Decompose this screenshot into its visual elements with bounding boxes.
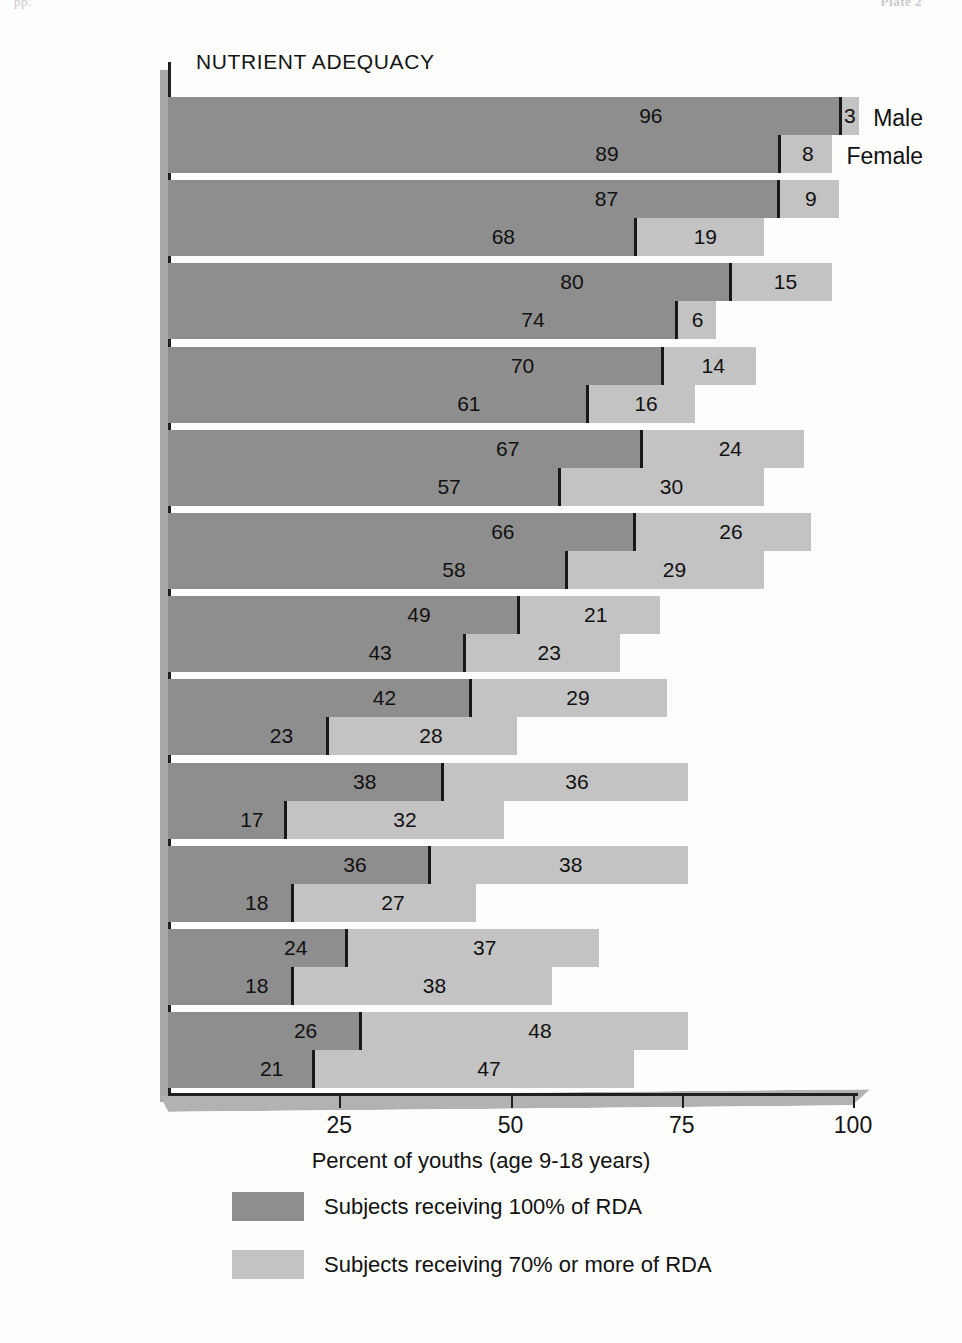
segment-100-rda	[168, 679, 469, 717]
segment-divider	[469, 679, 472, 717]
segment-70-rda	[359, 1012, 688, 1050]
segment-divider	[661, 347, 664, 385]
value-label-100-rda: 38	[353, 770, 376, 794]
x-tick-50	[511, 1093, 513, 1108]
segment-divider	[284, 801, 287, 839]
x-tick-25	[339, 1093, 341, 1108]
legend-label-100-rda: Subjects receiving 100% of RDA	[324, 1194, 642, 1220]
value-label-100-rda: 80	[560, 270, 583, 294]
value-label-70-rda: 36	[565, 770, 588, 794]
value-label-70-rda: 28	[419, 724, 442, 748]
value-label-70-rda: 24	[719, 437, 742, 461]
x-tick-label-50: 50	[498, 1112, 524, 1139]
segment-divider	[345, 929, 348, 967]
value-label-100-rda: 70	[511, 354, 534, 378]
x-axis-title: Percent of youths (age 9-18 years)	[0, 1148, 962, 1174]
segment-100-rda	[168, 1012, 359, 1050]
segment-100-rda	[168, 468, 558, 506]
segment-divider	[586, 385, 589, 423]
x-tick-100	[853, 1093, 855, 1108]
segment-divider	[312, 1050, 315, 1088]
segment-divider	[839, 97, 842, 135]
segment-divider	[291, 967, 294, 1005]
segment-100-rda	[168, 884, 291, 922]
value-label-70-rda: 29	[663, 558, 686, 582]
value-label-70-rda: 3	[844, 104, 856, 128]
segment-100-rda	[168, 801, 284, 839]
segment-100-rda	[168, 596, 517, 634]
x-tick-label-75: 75	[669, 1112, 695, 1139]
y-axis-shadow	[160, 70, 168, 1102]
segment-divider	[675, 301, 678, 339]
segment-divider	[565, 551, 568, 589]
segment-divider	[359, 1012, 362, 1050]
segment-100-rda	[168, 634, 463, 672]
segment-divider	[463, 634, 466, 672]
legend-label-70-rda: Subjects receiving 70% or more of RDA	[324, 1252, 712, 1278]
legend-swatch-100-rda	[232, 1192, 304, 1221]
value-label-70-rda: 48	[528, 1019, 551, 1043]
value-label-70-rda: 21	[584, 603, 607, 627]
segment-100-rda	[168, 430, 640, 468]
segment-divider	[634, 218, 637, 256]
value-label-70-rda: 16	[634, 392, 657, 416]
x-tick-label-25: 25	[326, 1112, 352, 1139]
segment-100-rda	[168, 967, 291, 1005]
segment-100-rda	[168, 717, 326, 755]
value-label-100-rda: 21	[260, 1057, 283, 1081]
value-label-70-rda: 14	[702, 354, 725, 378]
value-label-70-rda: 38	[559, 853, 582, 877]
segment-divider	[778, 135, 781, 173]
nutrient-adequacy-chart: NUTRIENT ADEQUACY Protein963898Vitamin B…	[0, 0, 962, 1343]
value-label-100-rda: 42	[373, 686, 396, 710]
value-label-70-rda: 8	[802, 142, 814, 166]
segment-divider	[640, 430, 643, 468]
series-label-female: Female	[846, 143, 923, 170]
x-tick-75	[682, 1093, 684, 1108]
segment-70-rda	[312, 1050, 634, 1088]
value-label-70-rda: 32	[393, 808, 416, 832]
legend-item-70: Subjects receiving 70% or more of RDA	[232, 1250, 712, 1279]
value-label-100-rda: 49	[407, 603, 430, 627]
value-label-70-rda: 6	[692, 308, 704, 332]
value-label-100-rda: 24	[284, 936, 307, 960]
segment-100-rda	[168, 97, 839, 135]
value-label-70-rda: 15	[774, 270, 797, 294]
value-label-100-rda: 87	[595, 187, 618, 211]
value-label-70-rda: 47	[477, 1057, 500, 1081]
value-label-100-rda: 66	[491, 520, 514, 544]
value-label-100-rda: 23	[270, 724, 293, 748]
segment-100-rda	[168, 347, 661, 385]
segment-divider	[326, 717, 329, 755]
segment-divider	[441, 763, 444, 801]
value-label-70-rda: 38	[423, 974, 446, 998]
segment-divider	[777, 180, 780, 218]
value-label-70-rda: 19	[694, 225, 717, 249]
value-label-70-rda: 27	[381, 891, 404, 915]
segment-divider	[291, 884, 294, 922]
legend-swatch-70-rda	[232, 1250, 304, 1279]
value-label-100-rda: 36	[343, 853, 366, 877]
value-label-100-rda: 67	[496, 437, 519, 461]
segment-100-rda	[168, 263, 729, 301]
segment-divider	[729, 263, 732, 301]
segment-100-rda	[168, 180, 777, 218]
segment-divider	[558, 468, 561, 506]
segment-100-rda	[168, 301, 675, 339]
segment-100-rda	[168, 385, 586, 423]
value-label-100-rda: 57	[437, 475, 460, 499]
segment-100-rda	[168, 218, 634, 256]
segment-100-rda	[168, 135, 778, 173]
plot-area: Protein963898Vitamin B128796819Riboflavi…	[168, 0, 868, 1050]
value-label-70-rda: 26	[719, 520, 742, 544]
value-label-100-rda: 18	[245, 891, 268, 915]
legend-item-100: Subjects receiving 100% of RDA	[232, 1192, 642, 1221]
value-label-70-rda: 30	[660, 475, 683, 499]
segment-70-rda	[428, 846, 688, 884]
value-label-100-rda: 17	[240, 808, 263, 832]
x-tick-label-100: 100	[834, 1112, 872, 1139]
segment-70-rda	[291, 967, 551, 1005]
segment-100-rda	[168, 929, 345, 967]
value-label-100-rda: 61	[457, 392, 480, 416]
value-label-70-rda: 9	[805, 187, 817, 211]
